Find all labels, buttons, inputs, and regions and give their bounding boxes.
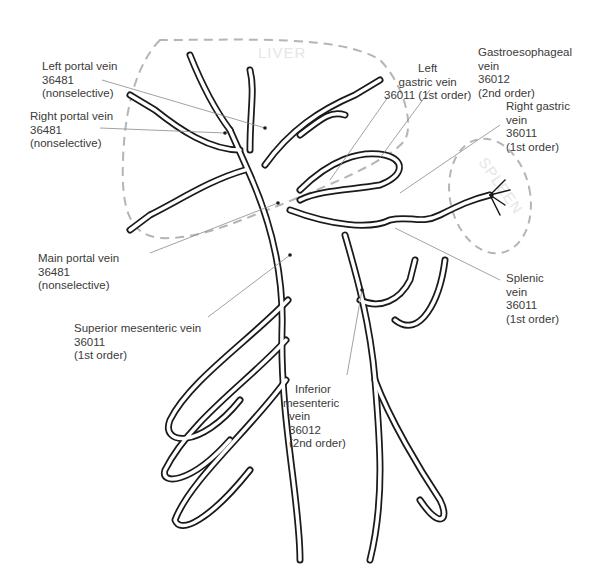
label-right-gastric-vein: Right gastric vein 36011 (1st order) [506,100,570,154]
label-splenic-vein: Splenic vein 36011 (1st order) [506,272,559,326]
veins [130,55,510,560]
label-inferior-mesenteric-vein: Inferior mesenteric vein 36012 (2nd orde… [283,383,346,451]
label-left-portal-vein: Left portal vein 36481 (nonselective) [42,60,117,101]
label-gastroesophageal-vein: Gastroesophageal vein 36012 (2nd order) [478,46,572,100]
label-right-portal-vein: Right portal vein 36481 (nonselective) [30,110,113,151]
label-main-portal-vein: Main portal vein 36481 (nonselective) [38,252,119,293]
label-superior-mesenteric-vein: Superior mesenteric vein 36011 (1st orde… [74,322,201,363]
label-left-gastric-vein: Left gastric vein 36011 (1st order) [384,62,471,103]
liver-label: LIVER [258,44,306,61]
portal-venous-diagram: LIVER SPLEEN [0,0,603,577]
